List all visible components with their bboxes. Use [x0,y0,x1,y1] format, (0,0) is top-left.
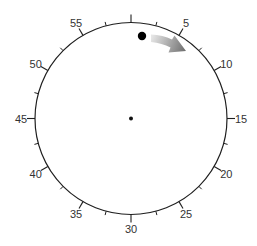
minute-label-25: 25 [180,208,192,220]
minor-tick [224,143,228,144]
minute-label-50: 50 [30,58,42,70]
minute-label-20: 20 [220,168,232,180]
minute-label-30: 30 [125,223,137,235]
minor-tick [156,22,157,26]
minute-label-15: 15 [235,113,247,125]
major-tick [41,167,48,171]
minor-tick [224,93,228,94]
minor-tick [105,22,106,26]
minor-tick [34,93,38,94]
minute-label-45: 45 [15,113,27,125]
minor-tick [60,48,63,51]
minute-label-5: 5 [183,17,189,29]
clock-dial-diagram: 510152025303540455055 [0,0,257,246]
minute-label-35: 35 [70,208,82,220]
major-tick [79,28,83,35]
center-dot [129,117,133,121]
minute-label-40: 40 [30,168,42,180]
clockwise-arrow-icon [151,35,186,53]
minute-labels: 510152025303540455055 [15,17,247,234]
major-tick [41,67,48,71]
minor-tick [199,186,202,189]
minute-label-55: 55 [70,17,82,29]
position-marker-dot [138,32,146,40]
minute-label-10: 10 [220,58,232,70]
minor-tick [105,211,106,215]
major-tick [179,28,183,35]
minor-tick [34,143,38,144]
minor-tick [199,48,202,51]
minor-tick [156,211,157,215]
minor-tick [60,186,63,189]
